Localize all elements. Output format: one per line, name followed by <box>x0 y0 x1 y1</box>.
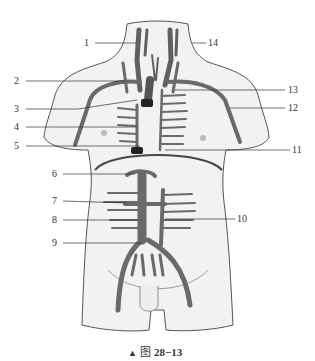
label-12: 12 <box>288 103 298 113</box>
label-10: 10 <box>237 214 247 224</box>
label-4: 4 <box>14 122 19 132</box>
label-3: 3 <box>14 104 19 114</box>
svc-cut-end <box>141 99 153 107</box>
label-13: 13 <box>288 85 298 95</box>
label-6: 6 <box>52 169 57 179</box>
superior-vena-cava <box>148 80 150 100</box>
caption-number: 28−13 <box>154 346 182 358</box>
label-9: 9 <box>52 238 57 248</box>
label-2: 2 <box>14 76 19 86</box>
label-5: 5 <box>14 141 19 151</box>
right-nipple <box>200 135 206 141</box>
label-8: 8 <box>52 215 57 225</box>
left-nipple <box>101 130 107 136</box>
figure-caption: ▲图28−13 <box>128 343 182 359</box>
label-11: 11 <box>292 145 302 155</box>
label-14: 14 <box>208 38 218 48</box>
ivc-cut-end-thoracic <box>131 147 143 154</box>
label-1: 1 <box>84 38 89 48</box>
genitals <box>140 286 158 311</box>
label-7: 7 <box>52 196 57 206</box>
anatomy-illustration <box>0 0 315 361</box>
caption-prefix: 图 <box>140 346 151 358</box>
triangle-marker-icon: ▲ <box>128 348 137 358</box>
